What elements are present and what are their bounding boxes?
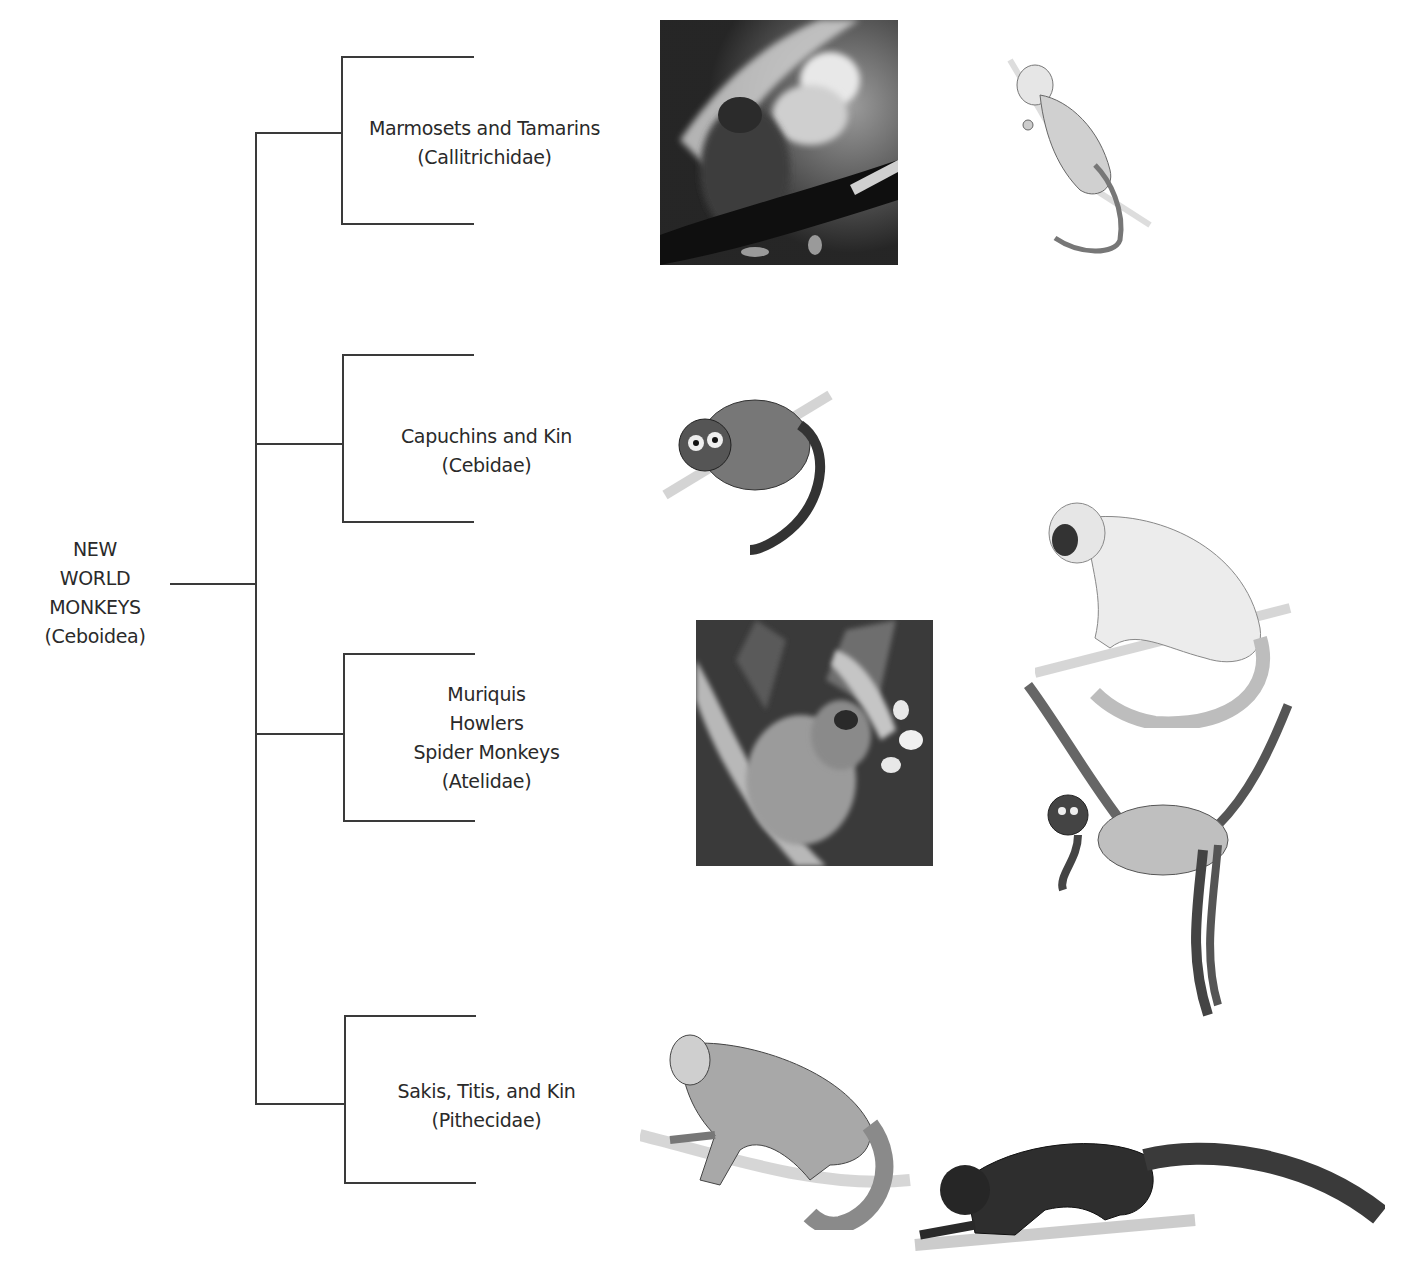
bracket-bottom-pithecidae bbox=[344, 1182, 476, 1184]
family-scientific-name: (Atelidae) bbox=[345, 767, 628, 796]
root-branch-line bbox=[170, 583, 257, 585]
family-common-name: Muriquis bbox=[345, 680, 628, 709]
bracket-top-pithecidae bbox=[344, 1015, 476, 1017]
root-label-line: (Ceboidea) bbox=[20, 622, 170, 651]
family-common-name: Howlers bbox=[345, 709, 628, 738]
family-common-name: Sakis, Titis, and Kin bbox=[345, 1077, 628, 1106]
family-common-name: Capuchins and Kin bbox=[345, 422, 628, 451]
spider-monkey-drawing bbox=[1018, 675, 1316, 1030]
family-scientific-name: (Cebidae) bbox=[345, 451, 628, 480]
bracket-bottom-atelidae bbox=[343, 820, 475, 822]
branch-line-callitrichidae bbox=[255, 132, 342, 134]
root-label-line: WORLD bbox=[20, 564, 170, 593]
family-label-callitrichidae: Marmosets and Tamarins (Callitrichidae) bbox=[343, 114, 626, 172]
family-common-name: Spider Monkeys bbox=[345, 738, 628, 767]
muriqui-photo bbox=[696, 620, 933, 866]
root-label-line: NEW bbox=[20, 535, 170, 564]
bracket-top-atelidae bbox=[343, 653, 475, 655]
saki-drawing bbox=[640, 1015, 915, 1230]
root-label: NEW WORLD MONKEYS (Ceboidea) bbox=[20, 535, 170, 651]
tamarin-drawing bbox=[1000, 50, 1175, 265]
marmoset-photo bbox=[660, 20, 898, 265]
bracket-cebidae bbox=[342, 354, 344, 522]
main-trunk-line bbox=[255, 132, 257, 1105]
bracket-top-callitrichidae bbox=[341, 56, 474, 58]
family-label-atelidae: Muriquis Howlers Spider Monkeys (Atelida… bbox=[345, 680, 628, 796]
branch-line-atelidae bbox=[256, 733, 344, 735]
family-label-pithecidae: Sakis, Titis, and Kin (Pithecidae) bbox=[345, 1077, 628, 1135]
family-common-name: Marmosets and Tamarins bbox=[343, 114, 626, 143]
root-label-line: MONKEYS bbox=[20, 593, 170, 622]
bracket-bottom-cebidae bbox=[342, 521, 474, 523]
owl-monkey-drawing bbox=[660, 385, 835, 555]
bracket-top-cebidae bbox=[342, 354, 474, 356]
bracket-bottom-callitrichidae bbox=[341, 223, 474, 225]
family-scientific-name: (Callitrichidae) bbox=[343, 143, 626, 172]
uakari-drawing bbox=[905, 1125, 1385, 1255]
branch-line-pithecidae bbox=[257, 1103, 344, 1105]
branch-line-cebidae bbox=[255, 443, 342, 445]
family-scientific-name: (Pithecidae) bbox=[345, 1106, 628, 1135]
family-label-cebidae: Capuchins and Kin (Cebidae) bbox=[345, 422, 628, 480]
